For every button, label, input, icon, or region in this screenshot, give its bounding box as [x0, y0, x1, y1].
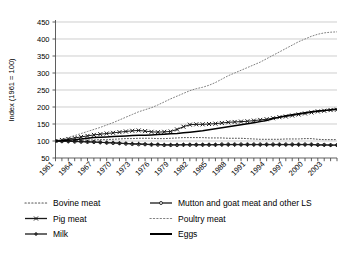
legend-label: Mutton and goat meat and other LS: [178, 198, 312, 208]
legend-label: Milk: [53, 229, 69, 239]
legend-item-mutton-goat-meat[interactable]: Mutton and goat meat and other LS: [150, 198, 312, 208]
y-tick-label: 250: [37, 86, 50, 95]
x-tick-label: 1973: [114, 160, 132, 178]
x-tick-label: 1979: [152, 160, 170, 178]
x-tick-label: 1961: [37, 160, 55, 178]
legend-label: Poultry meat: [178, 214, 226, 224]
x-tick-label: 1970: [95, 160, 113, 178]
y-tick-label: 350: [37, 52, 50, 61]
y-axis-title: Index (1961 = 100): [7, 58, 16, 122]
chart-figure: 5010015020025030035040045019611964196719…: [0, 0, 353, 254]
x-tick-label: 1991: [229, 160, 247, 178]
y-tick-label: 450: [37, 18, 50, 27]
x-tick-label: 1967: [76, 160, 94, 178]
x-axis-ticks: 1961196419671970197319761979198219851988…: [37, 158, 337, 178]
x-tick-label: 2003: [306, 160, 324, 178]
legend-item-eggs[interactable]: Eggs: [150, 229, 197, 239]
legend-label: Bovine meat: [53, 198, 101, 208]
x-tick-label: 1976: [133, 160, 151, 178]
y-tick-label: 400: [37, 35, 50, 44]
legend-item-milk[interactable]: Milk: [25, 229, 69, 239]
x-tick-label: 2000: [287, 160, 305, 178]
series-group: [54, 32, 340, 147]
x-tick-label: 1997: [268, 160, 286, 178]
y-tick-label: 150: [37, 120, 50, 129]
y-tick-label: 300: [37, 69, 50, 78]
legend-label: Eggs: [178, 229, 197, 239]
x-tick-label: 1985: [191, 160, 209, 178]
legend-label: Pig meat: [53, 214, 87, 224]
x-tick-label: 1988: [210, 160, 228, 178]
x-tick-label: 1994: [248, 160, 266, 178]
legend: Bovine meatMutton and goat meat and othe…: [25, 198, 312, 239]
x-tick-label: 1982: [172, 160, 190, 178]
legend-item-poultry-meat[interactable]: Poultry meat: [150, 214, 226, 224]
x-tick-label: 1964: [56, 160, 74, 178]
legend-item-pig-meat[interactable]: Pig meat: [25, 214, 87, 224]
series-milk: [54, 139, 339, 147]
marker-plus: [34, 232, 38, 236]
marker-circle: [160, 202, 163, 205]
y-tick-label: 200: [37, 103, 50, 112]
y-tick-label: 100: [37, 137, 50, 146]
legend-item-bovine-meat[interactable]: Bovine meat: [25, 198, 101, 208]
line-chart: 5010015020025030035040045019611964196719…: [0, 0, 353, 254]
